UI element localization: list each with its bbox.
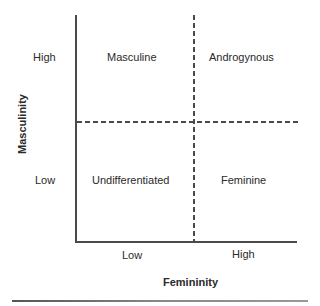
y-axis-line: [75, 15, 77, 243]
x-axis-line: [75, 241, 297, 243]
gender-role-quadrant-diagram: High Low Low High Masculine Androgynous …: [0, 0, 320, 306]
y-axis-title: Masculinity: [16, 94, 29, 154]
quadrant-undifferentiated: Undifferentiated: [92, 174, 169, 187]
quadrant-androgynous: Androgynous: [209, 51, 274, 64]
horizontal-dashed-divider: [77, 121, 301, 123]
quadrant-feminine: Feminine: [221, 174, 266, 187]
y-tick-high: High: [33, 51, 56, 64]
y-tick-low: Low: [35, 174, 55, 187]
quadrant-masculine: Masculine: [107, 51, 157, 64]
x-axis-title: Femininity: [163, 276, 218, 289]
bottom-divider-rule: [12, 300, 308, 302]
vertical-dashed-divider: [193, 15, 195, 241]
x-tick-low: Low: [122, 249, 142, 262]
x-tick-high: High: [232, 248, 255, 261]
